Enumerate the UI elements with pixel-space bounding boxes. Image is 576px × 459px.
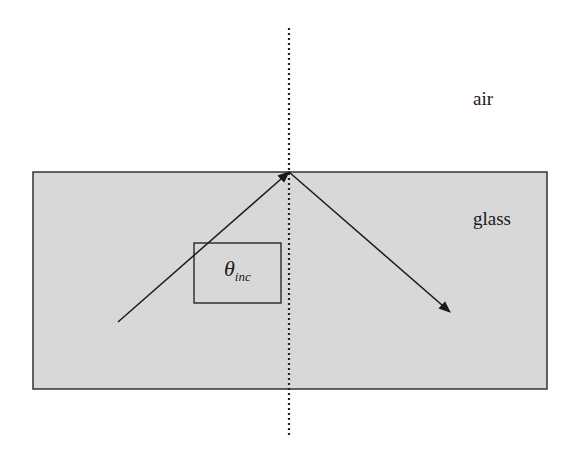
incidence-angle-label: θinc: [224, 256, 251, 285]
theta-subscript: inc: [235, 269, 251, 284]
theta-symbol: θ: [224, 256, 235, 281]
glass-label: glass: [473, 208, 511, 230]
air-label: air: [473, 88, 493, 110]
